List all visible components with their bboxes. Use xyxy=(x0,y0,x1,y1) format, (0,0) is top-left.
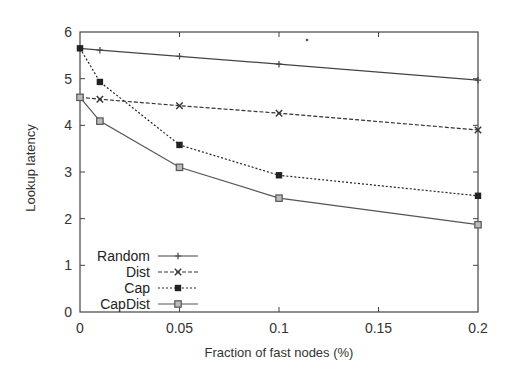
filled-square-marker-icon xyxy=(475,193,481,199)
filled-square-marker-icon xyxy=(175,285,181,291)
y-tick-label: 3 xyxy=(64,164,72,180)
open-square-marker-icon xyxy=(176,164,182,170)
y-axis-label: Lookup latency xyxy=(23,124,38,212)
legend-item-random: Random xyxy=(97,248,198,264)
x-tick-label: 0.1 xyxy=(269,320,289,336)
filled-square-marker-icon xyxy=(97,79,103,85)
y-tick-label: 4 xyxy=(64,117,72,133)
plus-marker-icon xyxy=(276,61,282,67)
x-tick-label: 0.05 xyxy=(166,320,193,336)
x-axis-label: Fraction of fast nodes (%) xyxy=(205,345,354,360)
cross-marker-icon xyxy=(175,269,181,275)
filled-square-marker-icon xyxy=(77,45,83,51)
series-dist xyxy=(77,94,481,133)
open-square-marker-icon xyxy=(475,222,481,228)
legend-label: CapDist xyxy=(100,296,150,312)
plus-marker-icon xyxy=(475,77,481,83)
open-square-marker-icon xyxy=(97,118,103,124)
y-tick-label: 5 xyxy=(64,71,72,87)
open-square-marker-icon xyxy=(276,195,282,201)
plus-marker-icon xyxy=(97,47,103,53)
legend-item-cap: Cap xyxy=(124,280,198,296)
series-layer xyxy=(77,45,481,228)
y-tick-label: 0 xyxy=(64,304,72,320)
filled-square-marker-icon xyxy=(176,142,182,148)
series-capdist xyxy=(77,94,481,228)
legend-item-capdist: CapDist xyxy=(100,296,198,312)
y-tick-label: 2 xyxy=(64,211,72,227)
cross-marker-icon xyxy=(97,96,103,102)
open-square-marker-icon xyxy=(77,94,83,100)
y-tick-label: 6 xyxy=(64,24,72,40)
plus-marker-icon xyxy=(176,53,182,59)
y-tick-label: 1 xyxy=(64,257,72,273)
x-tick-label: 0.15 xyxy=(365,320,392,336)
series-cap xyxy=(77,45,481,199)
filled-square-marker-icon xyxy=(276,172,282,178)
line-chart: 0123456 00.050.10.150.2 Fraction of fast… xyxy=(0,0,514,377)
open-square-marker-icon xyxy=(175,301,181,307)
stray-dot-artifact xyxy=(306,39,309,42)
legend-item-dist: Dist xyxy=(126,264,198,280)
plus-marker-icon xyxy=(175,253,181,259)
x-tick-label: 0.2 xyxy=(468,320,488,336)
legend: RandomDistCapCapDist xyxy=(97,248,198,312)
x-tick-label: 0 xyxy=(76,320,84,336)
legend-label: Dist xyxy=(126,264,150,280)
legend-label: Random xyxy=(97,248,150,264)
legend-label: Cap xyxy=(124,280,150,296)
series-random xyxy=(77,45,481,83)
series-line xyxy=(80,97,478,224)
